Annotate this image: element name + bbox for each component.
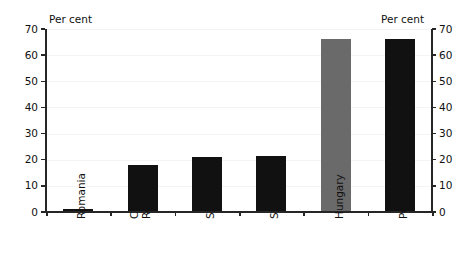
- y-axis-left-tick: [41, 81, 45, 83]
- gridline: [46, 29, 432, 30]
- y-axis-right-tick: [432, 159, 436, 161]
- x-axis-tick: [110, 212, 112, 216]
- y-axis-right-tick-label: 0: [439, 207, 446, 218]
- gridline: [46, 107, 432, 108]
- x-axis-tick: [303, 212, 305, 216]
- y-axis-right-tick-label: 70: [439, 24, 452, 35]
- y-axis-right-tick: [432, 185, 436, 187]
- y-axis-left-tick-label: 10: [12, 180, 38, 191]
- x-axis-tick: [46, 212, 48, 216]
- y-axis-left-tick: [41, 107, 45, 109]
- y-axis-left-tick-label: 30: [12, 128, 38, 139]
- y-axis-left-tick: [41, 54, 45, 56]
- gridline: [46, 55, 432, 56]
- y-axis-right-tick: [432, 81, 436, 83]
- gridline: [46, 134, 432, 135]
- y-axis-right-title: Per cent: [381, 14, 424, 25]
- plot-area: [46, 29, 432, 212]
- x-axis-tick: [239, 212, 241, 216]
- y-axis-right-tick-label: 60: [439, 50, 452, 61]
- y-axis-right-tick: [432, 54, 436, 56]
- y-axis-left-tick-label: 50: [12, 76, 38, 87]
- y-axis-left-tick-label: 60: [12, 50, 38, 61]
- y-axis-right-tick-label: 10: [439, 180, 452, 191]
- y-axis-left-line: [45, 29, 47, 212]
- x-axis-tick: [175, 212, 177, 216]
- y-axis-left-tick: [41, 28, 45, 30]
- y-axis-left-tick-label: 20: [12, 154, 38, 165]
- y-axis-left-tick: [41, 185, 45, 187]
- gridline: [46, 160, 432, 161]
- x-axis-tick: [368, 212, 370, 216]
- gridline: [46, 81, 432, 82]
- y-axis-left-tick-label: 70: [12, 24, 38, 35]
- y-axis-left-title: Per cent: [49, 14, 92, 25]
- y-axis-right-tick: [432, 107, 436, 109]
- y-axis-right-tick-label: 50: [439, 76, 452, 87]
- bar-chart: 010203040506070 010203040506070 Per cent…: [0, 0, 468, 277]
- gridline: [46, 186, 432, 187]
- y-axis-right-tick: [432, 28, 436, 30]
- y-axis-left-tick: [41, 133, 45, 135]
- y-axis-left-tick-label: 40: [12, 102, 38, 113]
- y-axis-right-tick-label: 20: [439, 154, 452, 165]
- y-axis-left-tick-label: 0: [12, 207, 38, 218]
- y-axis-left-tick: [41, 159, 45, 161]
- y-axis-right-tick-label: 30: [439, 128, 452, 139]
- y-axis-left-tick: [41, 211, 45, 213]
- y-axis-right-tick-label: 40: [439, 102, 452, 113]
- x-axis-tick: [432, 212, 434, 216]
- y-axis-right-tick: [432, 133, 436, 135]
